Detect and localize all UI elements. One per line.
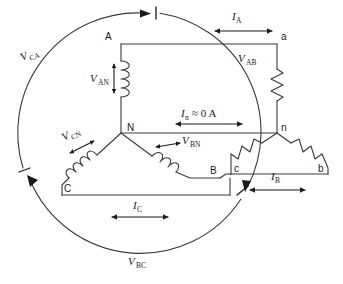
vab-symbol: V xyxy=(238,52,246,64)
load-resistor-c xyxy=(231,139,262,159)
circuit-diagram-figure: A N C B a n c b V CA V AB V BC V AN V xyxy=(0,0,343,284)
vab-arc xyxy=(160,13,261,186)
vca-subscript: CA xyxy=(28,50,42,62)
vbn-symbol: V xyxy=(182,134,190,146)
node-label-A: A xyxy=(105,31,112,42)
load-wire-nb xyxy=(277,133,291,143)
vbc-symbol: V xyxy=(128,255,136,267)
vbn-subscript: BN xyxy=(190,140,201,149)
label-ia-group: I A xyxy=(231,10,242,25)
vbn-arrow xyxy=(156,143,180,147)
in-subscript: n xyxy=(185,113,189,122)
node-label-C: C xyxy=(64,183,71,194)
label-ic-group: I C xyxy=(132,199,142,214)
label-vca-group: V CA xyxy=(18,45,41,66)
label-vbc-group: V BC xyxy=(128,255,146,270)
node-label-c: c xyxy=(234,163,239,174)
source-coil-c xyxy=(66,151,97,178)
vbc-tick xyxy=(19,168,30,172)
node-label-B: B xyxy=(210,165,217,176)
label-in-group: I n ≈ 0 A xyxy=(180,107,216,122)
vcn-subscript: CN xyxy=(69,129,83,142)
load-resistor-b xyxy=(291,139,322,159)
vca-arrowhead xyxy=(140,10,151,18)
node-label-b: b xyxy=(318,163,324,174)
vab-tick xyxy=(237,186,248,195)
node-label-n: n xyxy=(281,122,287,133)
source-phase-b-wire-upper xyxy=(121,133,152,156)
ic-subscript: C xyxy=(137,205,142,214)
in-value: ≈ 0 A xyxy=(192,107,216,119)
source-phase-c-wire-upper xyxy=(97,133,121,155)
node-label-a: a xyxy=(281,31,287,42)
load-resistor-a xyxy=(271,69,283,101)
annotation-arrows xyxy=(70,31,305,217)
load-wire-nc xyxy=(262,133,277,143)
source-coil-a xyxy=(121,61,129,97)
vab-subscript: AB xyxy=(246,58,256,67)
ib-subscript: B xyxy=(275,176,280,185)
node-label-N: N xyxy=(127,122,134,133)
van-subscript: AN xyxy=(98,78,109,87)
label-van-group: V AN xyxy=(90,72,109,87)
text-labels: A N C B a n c b V CA V AB V BC V AN V xyxy=(18,10,324,270)
label-vcn-group: V CN xyxy=(59,123,83,145)
wire-B-to-c xyxy=(220,174,231,178)
source-network xyxy=(62,44,277,195)
source-coil-b xyxy=(152,153,179,172)
vca-arc xyxy=(18,13,143,168)
circuit-svg: A N C B a n c b V CA V AB V BC V AN V xyxy=(0,0,343,284)
van-symbol: V xyxy=(90,72,98,84)
label-vbn-group: V BN xyxy=(182,134,201,149)
vbc-subscript: BC xyxy=(136,261,146,270)
label-ib-group: I B xyxy=(270,170,280,185)
ia-subscript: A xyxy=(236,16,242,25)
